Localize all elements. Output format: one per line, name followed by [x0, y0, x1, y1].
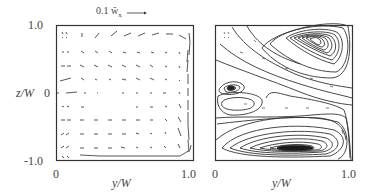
- left-panel-frame: [57, 26, 194, 161]
- vector-field: [60, 31, 191, 158]
- streamlines: [216, 24, 352, 160]
- figure-canvas: [0, 0, 375, 196]
